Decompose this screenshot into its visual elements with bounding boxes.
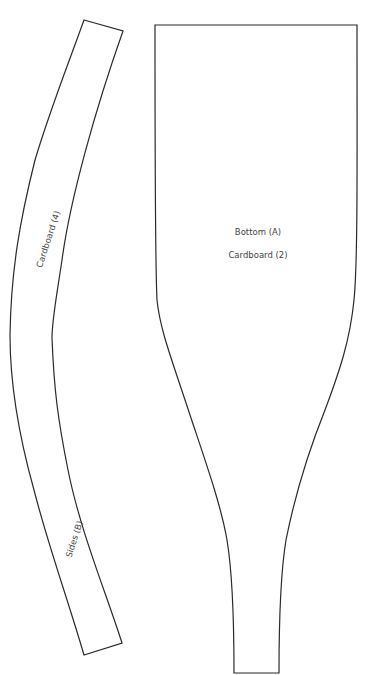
sides-piece: Cardboard (4) Sides (B) <box>10 20 123 655</box>
sides-piece-outline <box>10 20 123 655</box>
bottom-label-cardboard: Cardboard (2) <box>228 250 287 260</box>
sides-label-sides-b: Sides (B) <box>64 519 85 558</box>
bottom-label-bottom-a: Bottom (A) <box>235 227 281 237</box>
pattern-sheet: Cardboard (4) Sides (B) Bottom (A) Cardb… <box>0 0 375 675</box>
sides-label-cardboard: Cardboard (4) <box>34 209 62 268</box>
bottom-piece-outline <box>155 25 357 673</box>
bottom-piece: Bottom (A) Cardboard (2) <box>155 25 357 673</box>
